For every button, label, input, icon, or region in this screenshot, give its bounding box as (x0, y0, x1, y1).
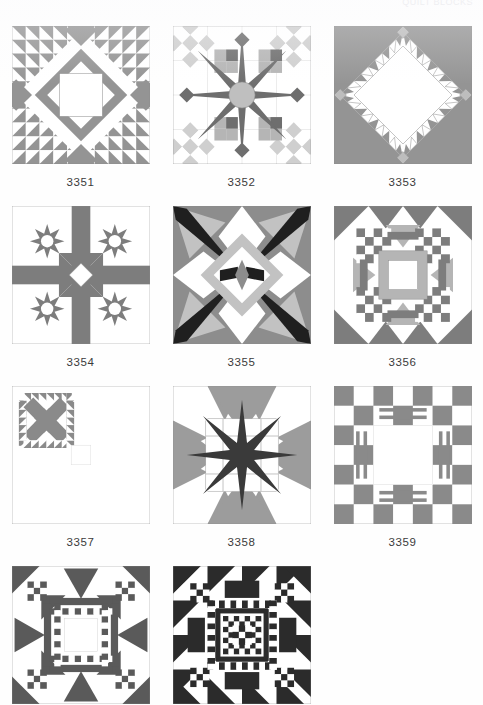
quilt-block-cell-3360[interactable] (0, 562, 161, 705)
quilt-block-cell-3361[interactable] (161, 562, 322, 705)
quilt-block-cell-3354[interactable]: 3354 (0, 202, 161, 368)
quilt-block-cell-3356[interactable]: 3356 (322, 202, 483, 368)
quilt-block-image-3352 (169, 22, 314, 167)
quilt-block-grid: 335133523353335433553356335733583359 (0, 22, 483, 705)
quilt-block-row: 335433553356 (0, 202, 483, 382)
quilt-block-caption: 3352 (228, 176, 256, 188)
quilt-block-image-3354 (8, 202, 153, 347)
quilt-block-image-3353 (330, 22, 475, 167)
quilt-block-image-3357 (8, 382, 153, 527)
quilt-block-caption: 3351 (67, 176, 95, 188)
quilt-block-caption: 3353 (389, 176, 417, 188)
quilt-block-cell-3351[interactable]: 3351 (0, 22, 161, 188)
quilt-block-caption: 3357 (67, 536, 95, 548)
quilt-block-image-3361 (169, 562, 314, 705)
quilt-block-cell-3359[interactable]: 3359 (322, 382, 483, 548)
running-head: QUILT BLOCKS (402, 0, 473, 7)
quilt-block-cell-3352[interactable]: 3352 (161, 22, 322, 188)
quilt-block-caption: 3355 (228, 356, 256, 368)
quilt-block-cell-3357[interactable]: 3357 (0, 382, 161, 548)
catalog-page: QUILT BLOCKS 335133523353335433553356335… (0, 0, 483, 705)
quilt-block-caption: 3358 (228, 536, 256, 548)
quilt-block-row: 335133523353 (0, 22, 483, 202)
quilt-block-image-3360 (8, 562, 153, 705)
quilt-block-image-3355 (169, 202, 314, 347)
quilt-block-image-3356 (330, 202, 475, 347)
quilt-block-caption: 3356 (389, 356, 417, 368)
quilt-block-row: 335733583359 (0, 382, 483, 562)
quilt-block-cell-3358[interactable]: 3358 (161, 382, 322, 548)
quilt-block-image-3359 (330, 382, 475, 527)
quilt-block-row (0, 562, 483, 705)
quilt-block-caption: 3354 (67, 356, 95, 368)
quilt-block-cell-3353[interactable]: 3353 (322, 22, 483, 188)
quilt-block-image-3358 (169, 382, 314, 527)
quilt-block-caption: 3359 (389, 536, 417, 548)
quilt-block-image-3351 (8, 22, 153, 167)
quilt-block-cell-3355[interactable]: 3355 (161, 202, 322, 368)
